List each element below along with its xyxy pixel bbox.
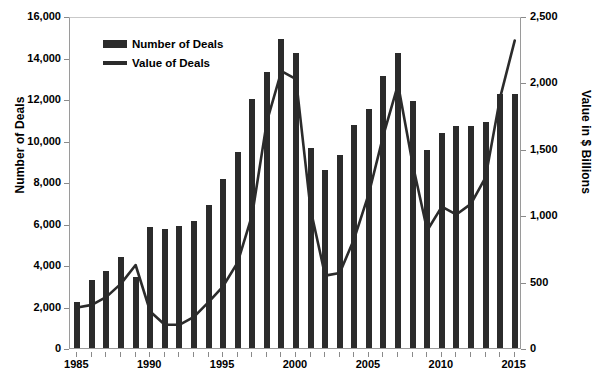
y-left-tick-6000: 6,000	[13, 218, 61, 230]
x-tickmark-1989	[135, 352, 136, 357]
y-left-tick-10000: 10,000	[13, 135, 61, 147]
x-tickmark-2011	[455, 352, 456, 357]
x-tickmark-1999	[280, 352, 281, 357]
x-tickmark-1992	[178, 352, 179, 357]
legend-label-value-of-deals: Value of Deals	[132, 57, 210, 69]
legend-item-value-of-deals: Value of Deals	[103, 55, 223, 70]
x-tickmark-1988	[120, 352, 121, 357]
x-tickmark-1990	[149, 352, 150, 357]
y-axis-right-title: Value in $ Billions	[579, 77, 593, 207]
y-left-tickmark	[64, 349, 69, 350]
x-tickmark-2001	[310, 352, 311, 357]
y-right-tick-1000: 1,000	[530, 209, 578, 221]
y-right-tick-500: 500	[530, 276, 578, 288]
x-tickmark-1998	[266, 352, 267, 357]
x-tick-2005: 2005	[346, 358, 390, 370]
x-tickmark-2000	[295, 352, 296, 357]
y-right-tick-2500: 2,500	[530, 10, 578, 22]
x-tickmark-2006	[382, 352, 383, 357]
y-left-tick-12000: 12,000	[13, 93, 61, 105]
y-left-tick-0: 0	[13, 342, 61, 354]
legend-bar-swatch-icon	[103, 40, 127, 48]
x-tickmark-1985	[76, 352, 77, 357]
y-left-tick-8000: 8,000	[13, 176, 61, 188]
x-tickmark-2005	[368, 352, 369, 357]
y-left-tick-4000: 4,000	[13, 259, 61, 271]
legend-line-swatch-icon	[103, 61, 127, 65]
x-tickmark-2004	[353, 352, 354, 357]
x-tickmark-2013	[485, 352, 486, 357]
x-tickmark-1994	[208, 352, 209, 357]
y-left-tick-14000: 14,000	[13, 52, 61, 64]
x-tickmark-1991	[164, 352, 165, 357]
x-tickmark-2015	[514, 352, 515, 357]
chart-container: Number of Deals Value in $ Billions 02,0…	[0, 0, 604, 372]
x-tick-2010: 2010	[419, 358, 463, 370]
x-tickmark-1996	[237, 352, 238, 357]
line-path	[77, 41, 514, 325]
x-tick-1995: 1995	[200, 358, 244, 370]
x-tickmark-2003	[339, 352, 340, 357]
x-tickmark-2014	[499, 352, 500, 357]
x-tickmark-2009	[426, 352, 427, 357]
y-left-tick-2000: 2,000	[13, 301, 61, 313]
y-right-tick-1500: 1,500	[530, 143, 578, 155]
x-tick-2000: 2000	[273, 358, 317, 370]
legend-item-number-of-deals: Number of Deals	[103, 36, 223, 51]
x-tickmark-2012	[470, 352, 471, 357]
x-tick-1985: 1985	[54, 358, 98, 370]
x-tick-2015: 2015	[492, 358, 536, 370]
x-tickmark-1997	[251, 352, 252, 357]
x-tickmark-2007	[397, 352, 398, 357]
x-tickmark-1987	[105, 352, 106, 357]
x-tickmark-1993	[193, 352, 194, 357]
x-axis-ticks: 1985199019952000200520102015	[69, 352, 521, 368]
x-tickmark-1995	[222, 352, 223, 357]
x-tick-1990: 1990	[127, 358, 171, 370]
chart-legend: Number of Deals Value of Deals	[103, 36, 223, 74]
legend-label-number-of-deals: Number of Deals	[132, 38, 223, 50]
x-tickmark-2010	[441, 352, 442, 357]
x-tickmark-2002	[324, 352, 325, 357]
x-tickmark-2008	[412, 352, 413, 357]
x-tickmark-1986	[91, 352, 92, 357]
y-left-tick-16000: 16,000	[13, 10, 61, 22]
y-right-tick-0: 0	[530, 342, 578, 354]
y-right-tick-2000: 2,000	[530, 76, 578, 88]
